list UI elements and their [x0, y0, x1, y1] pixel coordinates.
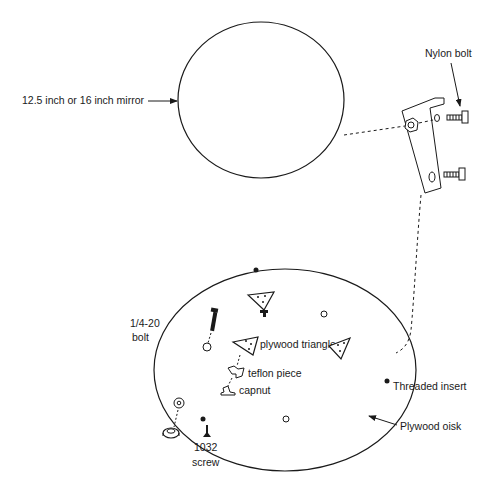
- plywood-triangle-icon: [233, 337, 258, 355]
- mirror-bracket-dashed-line: [344, 126, 405, 135]
- bolt-dashed-line: [208, 333, 211, 343]
- mirror-mount-diagram: 12.5 inch or 16 inch mirror Nylon bolt: [0, 0, 493, 491]
- mirror-ellipse: [178, 22, 344, 178]
- threaded-insert-dot: [385, 379, 390, 384]
- screw-word-label: screw: [192, 456, 220, 468]
- screw-icon: [203, 425, 211, 437]
- nylon-bolt-icon: [447, 111, 468, 123]
- capnut-icon: [221, 386, 235, 395]
- nylon-bolt-label: Nylon bolt: [425, 47, 472, 59]
- hole-icon: [321, 311, 327, 317]
- top-insert-dot: [254, 268, 259, 273]
- l-bracket: [402, 98, 444, 193]
- plywood-triangle-label: plywood triangle: [260, 338, 336, 350]
- nylon-bolt-lower-icon: [444, 168, 465, 180]
- screw-size-label: 1032: [194, 441, 218, 453]
- plywood-disk-arrow: [369, 416, 397, 425]
- screw-insert-dot: [201, 417, 206, 422]
- lock-nut-icon: [163, 428, 179, 438]
- hex-nut-icon: [405, 118, 418, 132]
- bolt-word-label: bolt: [132, 331, 149, 343]
- triangle-dashed-line: [237, 355, 240, 366]
- threaded-insert-label: Threaded insert: [393, 380, 467, 392]
- nylon-bolt-arrow: [451, 63, 460, 106]
- teflon-piece-icon: [228, 366, 244, 378]
- mirror-label: 12.5 inch or 16 inch mirror: [22, 94, 144, 106]
- hole-icon: [283, 416, 289, 422]
- teflon-dashed-line: [228, 378, 232, 386]
- quarter-twenty-bolt-icon: [210, 308, 218, 332]
- bolt-hole-icon: [203, 343, 211, 351]
- plywood-triangle-upper-icon: [248, 292, 274, 317]
- washer-icon: [174, 398, 184, 408]
- capnut-label: capnut: [239, 384, 271, 396]
- bolt-size-label: 1/4-20: [130, 317, 160, 329]
- plywood-disk-label: Plywood oisk: [400, 420, 462, 432]
- teflon-piece-label: teflon piece: [248, 367, 302, 379]
- bracket-insert-dashed-line: [396, 195, 421, 353]
